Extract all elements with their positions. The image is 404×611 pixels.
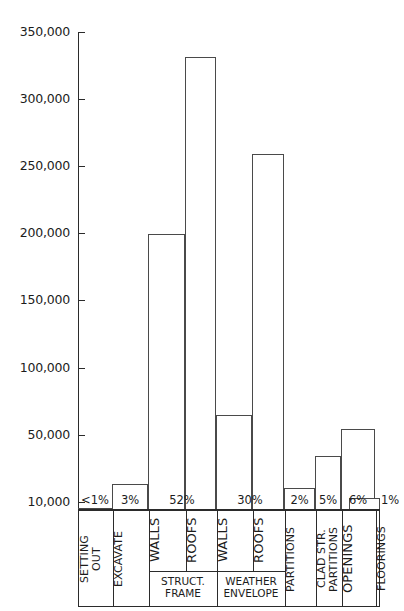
pct-setting-out: <1% — [78, 492, 112, 509]
label-walls-envelope: WALLS — [217, 511, 253, 569]
pct-clad-partitions: 5% — [315, 492, 341, 509]
label-roofs-envelope: ROOFS — [253, 511, 285, 569]
pct-excavate: 3% — [112, 492, 148, 509]
y-tick-label: 10,000 — [8, 494, 70, 509]
group-label-struct-frame: STRUCT. FRAME — [149, 575, 217, 599]
pct-floorings: 1% — [375, 492, 404, 509]
label-partitions: PARTITIONS — [285, 513, 316, 605]
y-tick-label: 300,000 — [8, 91, 70, 106]
label-setting-out: SETTING OUT — [79, 513, 113, 605]
plot-area — [78, 32, 380, 509]
category-label-table: SETTING OUT EXCAVATE WALLS ROOFS WALLS R… — [78, 509, 380, 607]
label-openings: OPENINGS — [342, 513, 376, 605]
y-tick-label: 100,000 — [8, 360, 70, 375]
group-rule-struct-frame — [149, 571, 217, 572]
group-rule-weather-envelope — [217, 571, 285, 572]
percent-row: <1% 3% 52% 30% 2% 5% 6% 1% — [78, 492, 380, 509]
label-clad-partitions: CLAD STR. PARTITIONS — [316, 513, 342, 605]
pct-openings: 6% — [341, 492, 375, 509]
bar-walls-frame — [148, 234, 185, 509]
y-tick-label: 350,000 — [8, 24, 70, 39]
pct-weather-envelope: 30% — [216, 492, 284, 509]
group-label-weather-envelope: WEATHER ENVELOPE — [217, 575, 285, 599]
pct-partitions: 2% — [284, 492, 315, 509]
label-walls-frame: WALLS — [149, 511, 186, 569]
y-tick-label: 200,000 — [8, 225, 70, 240]
label-floorings: FLOORINGS — [376, 513, 404, 605]
y-tick-label: 50,000 — [8, 427, 70, 442]
y-tick-label: 150,000 — [8, 292, 70, 307]
label-roofs-frame: ROOFS — [186, 511, 217, 569]
pct-struct-frame: 52% — [148, 492, 216, 509]
label-excavate: EXCAVATE — [113, 513, 149, 605]
bar-roofs-frame — [185, 57, 216, 509]
y-tick-label: 250,000 — [8, 158, 70, 173]
bar-roofs-envelope — [252, 154, 284, 509]
